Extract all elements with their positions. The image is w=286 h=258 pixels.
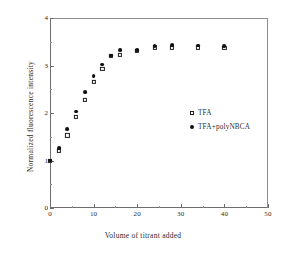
data-point-tfa-polynbca — [222, 44, 226, 48]
x-axis-tick-label: 0 — [48, 210, 52, 218]
x-axis-tick — [268, 204, 269, 208]
data-point-tfa-polynbca — [57, 146, 61, 150]
x-axis-minor-tick — [159, 206, 160, 208]
y-axis-tick — [50, 18, 54, 19]
x-axis-tick-label: 20 — [133, 210, 140, 218]
y-axis-title: Normalized fluorescence intensity — [26, 27, 35, 207]
y-axis-minor-tick — [50, 89, 52, 90]
legend-item-tfa-polynbca: TFA+polyNBCA — [186, 120, 250, 134]
x-axis-minor-tick — [246, 206, 247, 208]
y-axis-tick — [50, 208, 54, 209]
y-axis-tick-label: 4 — [40, 14, 48, 22]
data-point-tfa-polynbca — [66, 127, 70, 131]
legend-label-tfa-polynbca: TFA+polyNBCA — [198, 123, 250, 131]
y-axis-minor-tick — [50, 184, 52, 185]
data-point-tfa-polynbca — [118, 48, 122, 52]
data-point-tfa-polynbca — [74, 110, 78, 114]
x-axis-tick-label: 30 — [177, 210, 184, 218]
data-point-tfa — [92, 80, 96, 84]
y-axis-tick — [50, 113, 54, 114]
x-axis-minor-tick — [115, 206, 116, 208]
y-axis-tick-label: 0 — [40, 204, 48, 212]
data-point-tfa — [100, 67, 104, 71]
y-axis-minor-tick — [50, 137, 52, 138]
data-point-tfa-polynbca — [83, 90, 87, 94]
x-axis-tick — [181, 204, 182, 208]
data-point-tfa-polynbca — [196, 44, 200, 48]
data-point-tfa-polynbca — [92, 74, 96, 78]
x-axis-title: Volume of titrant added — [0, 231, 286, 240]
x-axis-minor-tick — [203, 206, 204, 208]
data-point-tfa — [65, 133, 69, 137]
data-point-tfa-polynbca — [109, 54, 113, 58]
y-axis-tick-label: 1 — [40, 157, 48, 165]
legend-item-tfa: TFA — [186, 106, 250, 120]
data-point-tfa-polynbca — [153, 44, 157, 48]
data-point-tfa — [74, 115, 78, 119]
x-axis-tick — [224, 204, 225, 208]
data-point-tfa-polynbca — [135, 48, 139, 52]
x-axis-tick — [137, 204, 138, 208]
filled-circle-marker-icon — [186, 125, 198, 129]
legend-label-tfa: TFA — [198, 109, 212, 117]
x-axis-tick-label: 10 — [90, 210, 97, 218]
data-point-tfa-polynbca — [100, 63, 104, 67]
data-point-tfa-polynbca — [48, 159, 52, 163]
y-axis-tick-label: 3 — [40, 62, 48, 70]
x-axis-tick — [94, 204, 95, 208]
y-axis-minor-tick — [50, 42, 52, 43]
plot-frame-top — [50, 18, 268, 19]
y-axis-tick-label: 2 — [40, 109, 48, 117]
x-axis-minor-tick — [72, 206, 73, 208]
data-point-tfa — [83, 98, 87, 102]
data-point-tfa-polynbca — [170, 43, 174, 47]
y-axis-tick — [50, 66, 54, 67]
plot-frame-right — [267, 18, 268, 208]
chart-figure: 0102030405001234 Volume of titrant added… — [0, 0, 286, 258]
chart-legend: TFA TFA+polyNBCA — [186, 106, 250, 134]
open-square-marker-icon — [186, 111, 198, 115]
x-axis-tick-label: 50 — [264, 210, 271, 218]
data-point-tfa — [118, 52, 122, 56]
x-axis-tick-label: 40 — [221, 210, 228, 218]
